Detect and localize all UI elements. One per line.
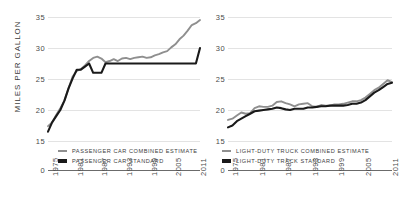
passenger-car-panel: MILES PER GALLON 35302520150197519811987… [0,0,204,214]
y-axis-title-left: MILES PER GALLON [13,12,22,122]
series-layer [48,0,200,170]
legend-label-estimate: LIGHT-DUTY TRUCK COMBINED ESTIMATE [236,148,369,154]
y-tick-label-20: 20 [36,106,45,115]
y-tick-label-0: 0 [220,166,225,175]
y-tick-label-15: 15 [36,137,45,146]
y-tick-label-35: 35 [36,13,45,22]
light-duty-truck-panel: 353025201501975198119871993199920052011 … [204,0,396,214]
legend-item-standard: LIGHT-DUTY TRACK STANDARD [222,156,369,166]
y-tick-label-25: 25 [36,75,45,84]
y-tick-label-35: 35 [216,13,225,22]
y-tick-label-30: 30 [36,44,45,53]
y-tick-label-0: 0 [40,166,45,175]
y-tick-label-25: 25 [216,75,225,84]
series-line-combined-estimate [228,80,392,120]
legend-item-estimate: PASSENGER CAR COMBINED ESTIMATE [58,146,198,156]
legend-right: LIGHT-DUTY TRUCK COMBINED ESTIMATELIGHT-… [222,146,369,166]
legend-left: PASSENGER CAR COMBINED ESTIMATEPASSENGER… [58,146,198,166]
legend-item-estimate: LIGHT-DUTY TRUCK COMBINED ESTIMATE [222,146,369,156]
series-layer [228,0,392,170]
y-tick-label-15: 15 [216,137,225,146]
legend-label-standard: PASSENGER CAR STANDARD [72,158,164,164]
legend-label-estimate: PASSENGER CAR COMBINED ESTIMATE [72,148,198,154]
legend-swatch-estimate [222,150,231,152]
series-line-standard [48,48,200,132]
legend-swatch-estimate [58,150,67,152]
legend-item-standard: PASSENGER CAR STANDARD [58,156,198,166]
legend-swatch-standard [58,159,67,162]
legend-label-standard: LIGHT-DUTY TRACK STANDARD [236,158,335,164]
y-tick-label-30: 30 [216,44,225,53]
legend-swatch-standard [222,159,231,162]
series-line-combined-estimate [48,20,200,126]
y-tick-label-20: 20 [216,106,225,115]
